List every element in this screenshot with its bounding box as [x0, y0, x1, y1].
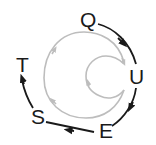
spiral-outer-arc: [44, 32, 124, 118]
node-e: E: [99, 120, 113, 141]
spiral-arrow-4: [88, 82, 89, 86]
cycle-diagram: Q U E S T: [0, 0, 156, 145]
node-u: U: [129, 66, 144, 87]
arrow-e-s: [68, 130, 74, 131]
inner-spiral: [44, 32, 124, 118]
node-t: T: [16, 54, 29, 75]
node-q: Q: [80, 9, 96, 30]
spiral-inner-hook: [86, 56, 124, 98]
node-s: S: [31, 106, 45, 127]
edge-s-t: [22, 80, 33, 108]
edge-u-e: [112, 88, 136, 126]
